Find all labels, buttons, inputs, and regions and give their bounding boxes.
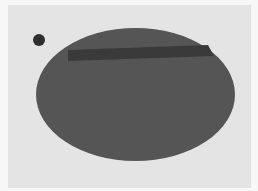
scene	[0, 0, 258, 191]
small-dot	[33, 34, 45, 46]
image-frame	[0, 0, 258, 191]
